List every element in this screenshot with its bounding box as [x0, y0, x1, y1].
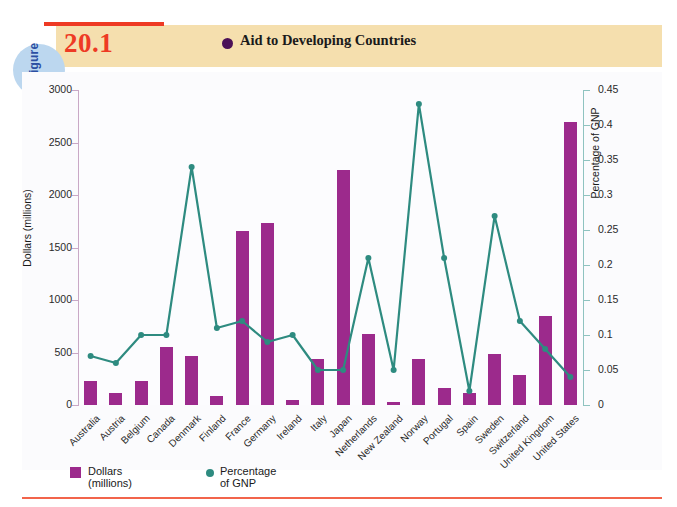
figure-title: Aid to Developing Countries [240, 32, 416, 49]
y-axis-left-tick-label: 2500 [28, 136, 72, 148]
y-axis-right-tick [584, 335, 590, 336]
line-marker [492, 213, 498, 219]
line-marker [264, 339, 270, 345]
line-marker [416, 101, 422, 107]
y-axis-left-title: Dollars (millions) [21, 168, 33, 288]
y-axis-right-tick [584, 300, 590, 301]
legend-line-label: Percentage of GNP [220, 465, 276, 489]
legend-line-dot-icon [206, 469, 214, 477]
line-series-layer [78, 90, 583, 405]
y-axis-right-tick [584, 405, 590, 406]
y-axis-right-tick-label: 0.45 [598, 83, 638, 95]
y-axis-left-tick-label: 500 [28, 346, 72, 358]
y-axis-left-tick-label: 1500 [28, 241, 72, 253]
legend-bar-swatch [70, 467, 81, 478]
y-axis-right-tick-label: 0.35 [598, 153, 638, 165]
footer-rule [22, 497, 662, 499]
y-axis-left-tick [72, 405, 78, 406]
y-axis-right-tick-label: 0.3 [598, 188, 638, 200]
gnp-line [91, 104, 571, 391]
y-axis-right-tick-label: 0.25 [598, 223, 638, 235]
header-rule [44, 22, 164, 26]
y-axis-right-tick-label: 0.1 [598, 328, 638, 340]
line-marker [163, 332, 169, 338]
y-axis-left-tick-label: 2000 [28, 188, 72, 200]
line-marker [391, 367, 397, 373]
line-marker [239, 318, 245, 324]
line-marker [542, 346, 548, 352]
y-axis-right-tick [584, 265, 590, 266]
line-marker [189, 164, 195, 170]
line-marker [466, 388, 472, 394]
y-axis-right-tick-label: 0.05 [598, 363, 638, 375]
y-axis-right-tick-label: 0.2 [598, 258, 638, 270]
y-axis-right-tick [584, 230, 590, 231]
y-axis-right [583, 90, 584, 406]
y-axis-right-tick-label: 0.4 [598, 118, 638, 130]
chart-container: 050010001500200025003000 00.050.10.150.2… [0, 72, 677, 472]
y-axis-left-tick-label: 1000 [28, 293, 72, 305]
y-axis-right-tick-label: 0.15 [598, 293, 638, 305]
line-marker [365, 255, 371, 261]
line-marker [315, 367, 321, 373]
line-marker [290, 332, 296, 338]
line-marker [88, 353, 94, 359]
line-marker [214, 325, 220, 331]
legend-bar-label: Dollars (millions) [88, 465, 132, 489]
line-marker [138, 332, 144, 338]
line-marker [567, 374, 573, 380]
figure-number: 20.1 [64, 28, 113, 59]
line-marker [340, 367, 346, 373]
y-axis-left-tick-label: 3000 [28, 83, 72, 95]
y-axis-right-tick [584, 370, 590, 371]
line-marker [517, 318, 523, 324]
title-bullet-icon [222, 38, 233, 49]
line-marker [441, 255, 447, 261]
y-axis-right-title: Percentage of GNP [589, 88, 601, 218]
gnp-line-markers [88, 101, 574, 394]
y-axis-right-tick-label: 0 [598, 398, 638, 410]
y-axis-left-tick-label: 0 [28, 398, 72, 410]
line-marker [113, 360, 119, 366]
figure-header: figure 20.1 Aid to Developing Countries [22, 22, 662, 67]
